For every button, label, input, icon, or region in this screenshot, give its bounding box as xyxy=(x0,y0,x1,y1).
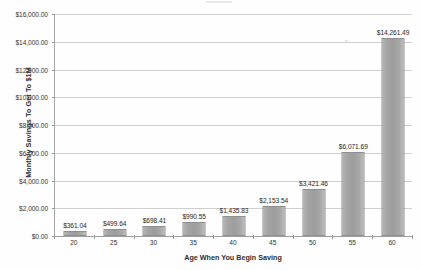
bar-value-label: $499.64 xyxy=(103,220,127,227)
x-axis-title: Age When You Begin Saving xyxy=(54,253,412,262)
y-axis-tick-label: $14,000.00 xyxy=(15,38,48,45)
x-axis-tickmark xyxy=(54,235,55,239)
bar xyxy=(302,189,325,236)
bar-value-label: $361.04 xyxy=(63,222,87,229)
scan-artifact xyxy=(206,1,232,3)
y-axis-tick-label: $16,000.00 xyxy=(15,11,48,18)
bar-group: $990.55 xyxy=(174,14,214,236)
y-axis-tick-label: $6,000.00 xyxy=(19,149,48,156)
bar-value-label: $698.41 xyxy=(143,217,167,224)
bar-chart: Monthly Savings To Get To $1M $0.00$2,00… xyxy=(0,0,422,270)
x-axis-tickmark xyxy=(253,235,254,239)
y-axis-tick-label: $8,000.00 xyxy=(19,122,48,129)
bar-value-label: $1,435.83 xyxy=(220,207,249,214)
x-axis-tickmark xyxy=(213,235,214,239)
bar-value-label: $2,153.54 xyxy=(259,197,288,204)
bar-value-label: $14,261.49 xyxy=(377,29,410,36)
bar xyxy=(63,231,86,236)
bar-group: $499.64 xyxy=(95,14,135,236)
bar xyxy=(382,38,405,236)
x-axis-tickmark xyxy=(293,235,294,239)
x-axis-tickmark xyxy=(332,235,333,239)
bar-group: $1,435.83 xyxy=(214,14,254,236)
x-axis-tick-label: 45 xyxy=(269,239,276,246)
x-axis-tick-label: 25 xyxy=(110,239,117,246)
bar xyxy=(103,229,126,236)
bar xyxy=(183,222,206,236)
y-axis-tick-label: $10,000.00 xyxy=(15,94,48,101)
y-axis-tick-label: $0.00 xyxy=(32,233,48,240)
bar-group: $2,153.54 xyxy=(254,14,294,236)
bar xyxy=(262,206,285,236)
x-axis-tick-label: 35 xyxy=(190,239,197,246)
y-axis-tick-labels: $0.00$2,000.00$4,000.00$6,000.00$8,000.0… xyxy=(4,14,51,236)
y-axis-tick-label: $4,000.00 xyxy=(19,177,48,184)
y-axis-tick-label: $12,000.00 xyxy=(15,66,48,73)
x-axis-tickmark xyxy=(134,235,135,239)
x-axis-tick-label: 50 xyxy=(309,239,316,246)
plot-area: $361.04$499.64$698.41$990.55$1,435.83$2,… xyxy=(54,14,412,236)
bar-value-label: $990.55 xyxy=(182,213,206,220)
bar-value-label: $6,071.69 xyxy=(339,143,368,150)
x-axis-tickmark xyxy=(412,235,413,239)
x-axis-tick-label: 55 xyxy=(349,239,356,246)
bar xyxy=(143,226,166,236)
bar-group: $6,071.69 xyxy=(333,14,373,236)
x-axis-tick-labels: 202530354045505560 xyxy=(54,239,412,251)
x-axis-tickmark xyxy=(94,235,95,239)
bar-group: $361.04 xyxy=(55,14,95,236)
y-axis-tick-label: $2,000.00 xyxy=(19,205,48,212)
bar-group: $14,261.49 xyxy=(373,14,413,236)
bar-group: $3,421.46 xyxy=(294,14,334,236)
x-axis-tick-label: 20 xyxy=(70,239,77,246)
x-axis-tickmark xyxy=(173,235,174,239)
bar xyxy=(342,152,365,236)
bar-group: $698.41 xyxy=(135,14,175,236)
x-axis-tick-label: 60 xyxy=(388,239,395,246)
x-axis-tick-label: 30 xyxy=(150,239,157,246)
bar xyxy=(222,216,245,236)
x-axis-tickmark xyxy=(372,235,373,239)
gridline xyxy=(55,236,412,237)
x-axis-tick-label: 40 xyxy=(229,239,236,246)
bar-value-label: $3,421.46 xyxy=(299,180,328,187)
bars-layer: $361.04$499.64$698.41$990.55$1,435.83$2,… xyxy=(55,14,412,236)
